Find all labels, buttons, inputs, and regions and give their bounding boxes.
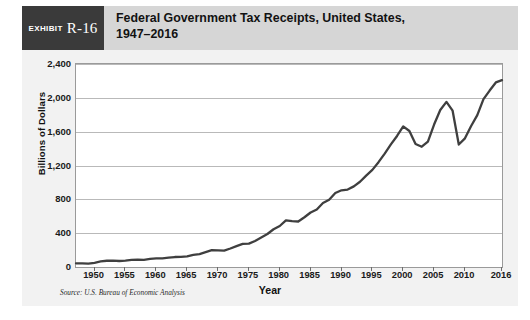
source-note: Source: U.S. Bureau of Economic Analysis [60,288,185,297]
exhibit-tag: Exhibit R-16 [22,6,104,50]
y-axis-tick-label: 800 [31,193,71,204]
y-axis-tick-label: 0 [31,261,71,272]
y-axis-tick-label: 400 [31,227,71,238]
exhibit-tag-word: Exhibit [28,24,62,33]
chart-card: Billions of Dollars 04008001,2001,6002,0… [22,50,518,306]
y-axis-tick-label: 2,400 [31,58,71,69]
exhibit-title: Federal Government Tax Receipts, United … [104,6,518,50]
y-axis-tick-label: 1,200 [31,159,71,170]
y-axis-tick-label: 1,600 [31,125,71,136]
exhibit-header-band: Exhibit R-16 Federal Government Tax Rece… [22,6,518,50]
exhibit-figure: Exhibit R-16 Federal Government Tax Rece… [0,0,530,320]
x-axis-tick-label: 2016 [481,270,521,280]
series-line-chart [76,64,502,267]
plot-area [75,63,503,268]
y-axis-tick-label: 2,000 [31,91,71,102]
exhibit-tag-number: R-16 [67,20,98,37]
y-axis-tick-labels: 04008001,2001,6002,0002,400 [27,63,71,268]
tax-receipts-line [76,80,502,264]
x-axis-tick-label: 2010 [444,270,484,280]
